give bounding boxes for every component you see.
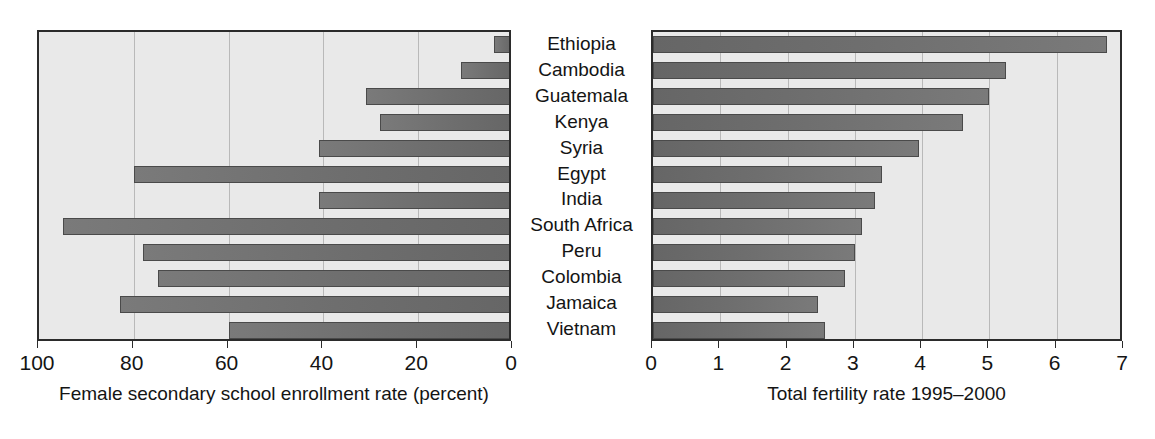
category-labels: EthiopiaCambodiaGuatemalaKenyaSyriaEgypt… (512, 30, 651, 341)
bar-row (653, 140, 1120, 157)
axis-tick-label: 4 (914, 352, 926, 373)
bar (461, 62, 511, 79)
axis-tick (920, 341, 921, 348)
category-label: Colombia (512, 267, 651, 286)
axis-tick (1122, 341, 1123, 348)
bar-row (653, 192, 1120, 209)
bar-row (39, 322, 509, 339)
category-label: Ethiopia (512, 34, 651, 53)
figure-root: 100806040200 Female secondary school enr… (0, 0, 1155, 439)
bar-row (39, 88, 509, 105)
category-label: Kenya (512, 112, 651, 131)
bar-row (39, 140, 509, 157)
bar-row (653, 296, 1120, 313)
axis-tick-label: 0 (645, 352, 657, 373)
bar-row (653, 36, 1120, 53)
axis-tick-label: 6 (1049, 352, 1061, 373)
bar (653, 114, 963, 131)
bar (653, 322, 825, 339)
category-label: South Africa (512, 215, 651, 234)
bar (494, 36, 511, 53)
bar-row (39, 270, 509, 287)
bar (653, 140, 919, 157)
bar (63, 218, 511, 235)
axis-tick (718, 341, 719, 348)
bar-row (39, 244, 509, 261)
bar (120, 296, 511, 313)
category-label: Cambodia (512, 60, 651, 79)
axis-tick-label: 20 (405, 352, 428, 373)
bar (653, 244, 855, 261)
bar (653, 62, 1006, 79)
bar (366, 88, 511, 105)
bar (134, 166, 511, 183)
bar-row (39, 36, 509, 53)
left-axis-title: Female secondary school enrollment rate … (59, 383, 489, 405)
axis-tick-label: 60 (215, 352, 238, 373)
category-label: Egypt (512, 164, 651, 183)
bar (653, 270, 845, 287)
category-label: Guatemala (512, 86, 651, 105)
bar-row (653, 244, 1120, 261)
bar-row (39, 166, 509, 183)
bar (653, 192, 875, 209)
bar-row (653, 270, 1120, 287)
category-label: Peru (512, 241, 651, 260)
bar (319, 140, 511, 157)
axis-tick (321, 341, 322, 348)
category-label: India (512, 189, 651, 208)
axis-tick (1055, 341, 1056, 348)
bar (653, 88, 989, 105)
bar-row (653, 62, 1120, 79)
bar (653, 296, 818, 313)
axis-tick-label: 3 (847, 352, 859, 373)
right-plot-area (651, 30, 1122, 341)
bar (653, 166, 882, 183)
bar-row (653, 166, 1120, 183)
bar-row (653, 218, 1120, 235)
bar-row (653, 322, 1120, 339)
axis-tick-label: 0 (505, 352, 517, 373)
bar (653, 218, 862, 235)
bar (143, 244, 511, 261)
axis-tick-label: 100 (19, 352, 54, 373)
left-plot-area (37, 30, 511, 341)
axis-tick (37, 341, 38, 348)
axis-tick (987, 341, 988, 348)
bar-row (653, 114, 1120, 131)
axis-tick-label: 40 (310, 352, 333, 373)
bar-row (39, 218, 509, 235)
axis-tick-label: 80 (120, 352, 143, 373)
axis-tick (132, 341, 133, 348)
bar-row (39, 192, 509, 209)
axis-tick-label: 1 (712, 352, 724, 373)
bar (229, 322, 511, 339)
category-label: Vietnam (512, 319, 651, 338)
axis-tick (511, 341, 512, 348)
right-axis-title: Total fertility rate 1995–2000 (767, 383, 1006, 405)
axis-tick (651, 341, 652, 348)
bar (319, 192, 511, 209)
category-label: Syria (512, 138, 651, 157)
axis-tick-label: 5 (982, 352, 994, 373)
bar (158, 270, 512, 287)
axis-tick (227, 341, 228, 348)
axis-tick-label: 7 (1116, 352, 1128, 373)
axis-tick (853, 341, 854, 348)
bar-row (39, 62, 509, 79)
bar (380, 114, 511, 131)
bar (653, 36, 1107, 53)
axis-tick (416, 341, 417, 348)
axis-tick (786, 341, 787, 348)
axis-tick-label: 2 (780, 352, 792, 373)
bar-row (653, 88, 1120, 105)
bar-row (39, 296, 509, 313)
category-label: Jamaica (512, 293, 651, 312)
bar-row (39, 114, 509, 131)
